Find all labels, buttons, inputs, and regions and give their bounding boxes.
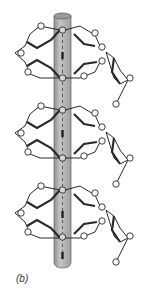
rod [54,13,71,268]
side-chain [106,52,133,265]
figure-label: (b) [16,273,28,284]
polyrotaxane-diagram [0,0,144,303]
